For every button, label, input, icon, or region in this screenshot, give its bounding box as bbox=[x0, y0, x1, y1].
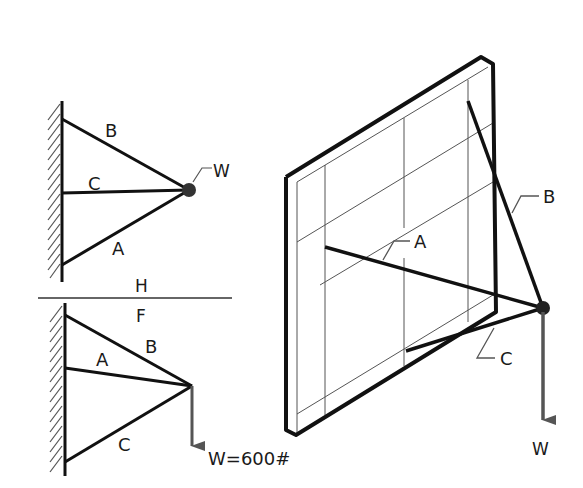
label-a-front: A bbox=[96, 349, 109, 370]
member-a-top bbox=[62, 190, 189, 265]
label-c-pictorial: C bbox=[500, 348, 513, 369]
label-c-top: C bbox=[88, 173, 101, 194]
label-a-top: A bbox=[112, 238, 125, 259]
member-c-top bbox=[62, 190, 189, 193]
load-node-top bbox=[182, 183, 196, 197]
label-b-top: B bbox=[105, 120, 117, 141]
label-b-pictorial: B bbox=[543, 186, 555, 207]
member-b-top bbox=[62, 119, 189, 190]
front-view: B A C W=600# bbox=[50, 303, 290, 476]
label-h: H bbox=[135, 276, 148, 296]
wall-hatch-front bbox=[50, 306, 62, 472]
label-w-top: W bbox=[213, 161, 230, 181]
label-c-front: C bbox=[118, 434, 131, 455]
label-b-front: B bbox=[145, 336, 157, 357]
diagram-canvas: W B C A H F bbox=[0, 0, 583, 488]
leader-c-pictorial bbox=[477, 328, 495, 358]
leader-b-pictorial bbox=[512, 196, 539, 213]
member-c-pictorial bbox=[406, 308, 543, 351]
member-a-pictorial bbox=[325, 247, 543, 308]
top-view: W B C A bbox=[48, 101, 230, 282]
member-b-pictorial bbox=[468, 101, 543, 308]
label-f: F bbox=[136, 306, 146, 326]
label-w-pictorial: W bbox=[532, 439, 549, 459]
fold-line-group: H F bbox=[38, 276, 232, 326]
label-w-front: W=600# bbox=[208, 448, 290, 469]
pictorial-view: A B C W bbox=[286, 57, 555, 459]
panel-grid bbox=[297, 67, 493, 433]
member-b-front bbox=[65, 315, 192, 386]
leader-a-pictorial bbox=[383, 241, 410, 260]
concurrent-force-diagram: W B C A H F bbox=[0, 0, 583, 488]
leader-w-top bbox=[193, 168, 212, 182]
wall-hatch-top bbox=[48, 104, 60, 278]
label-a-pictorial: A bbox=[414, 231, 427, 252]
